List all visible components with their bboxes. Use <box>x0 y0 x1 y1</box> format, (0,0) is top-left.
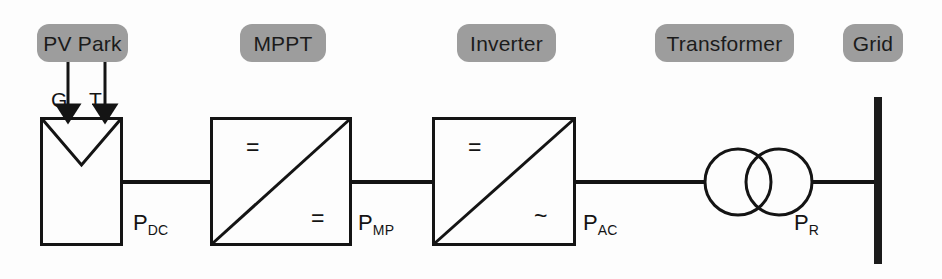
stage-label-grid-text: Grid <box>853 33 893 54</box>
mppt-output-symbol: = <box>311 207 324 230</box>
input-label-irradiance: G <box>51 89 67 110</box>
stage-label-mppt-text: MPPT <box>253 33 312 54</box>
power-label-p-mp-sub: MP <box>373 222 395 238</box>
inverter-diagonal <box>435 120 573 243</box>
power-label-p-mp: PMP <box>358 212 394 234</box>
transformer-primary-winding <box>705 149 771 215</box>
pv-module-box <box>42 119 122 245</box>
mppt-diagonal <box>213 120 349 243</box>
power-label-p-r-base: P <box>794 210 809 235</box>
power-label-p-ac: PAC <box>583 212 618 234</box>
stage-label-mppt: MPPT <box>240 24 326 62</box>
stage-label-inverter: Inverter <box>457 24 556 62</box>
stage-label-transformer: Transformer <box>655 24 794 62</box>
power-conversion-diagram: PV Park MPPT Inverter Transformer Grid G… <box>0 0 942 279</box>
power-label-p-dc-sub: DC <box>148 222 169 238</box>
power-label-p-dc-base: P <box>133 210 148 235</box>
inverter-output-symbol: ~ <box>534 205 547 228</box>
mppt-input-symbol: = <box>246 136 259 159</box>
stage-label-pv-park: PV Park <box>37 24 128 62</box>
power-label-p-r-sub: R <box>809 222 819 238</box>
stage-label-inverter-text: Inverter <box>470 33 543 54</box>
power-label-p-dc: PDC <box>133 212 169 234</box>
power-label-p-mp-base: P <box>358 210 373 235</box>
inverter-input-symbol: = <box>468 136 481 159</box>
input-label-temperature: T <box>89 89 102 110</box>
power-label-p-ac-base: P <box>583 210 598 235</box>
power-label-p-ac-sub: AC <box>598 222 618 238</box>
stage-label-pv-park-text: PV Park <box>43 33 121 54</box>
transformer-secondary-winding <box>746 149 812 215</box>
power-label-p-r: PR <box>794 212 819 234</box>
stage-label-grid: Grid <box>843 24 903 62</box>
pv-chevron-icon <box>43 120 120 165</box>
stage-label-transformer-text: Transformer <box>667 33 783 54</box>
